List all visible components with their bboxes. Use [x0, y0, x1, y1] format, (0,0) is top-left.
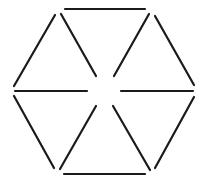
matchstick-hexagon-diagram: [0, 0, 204, 188]
diagram-background: [0, 0, 204, 188]
